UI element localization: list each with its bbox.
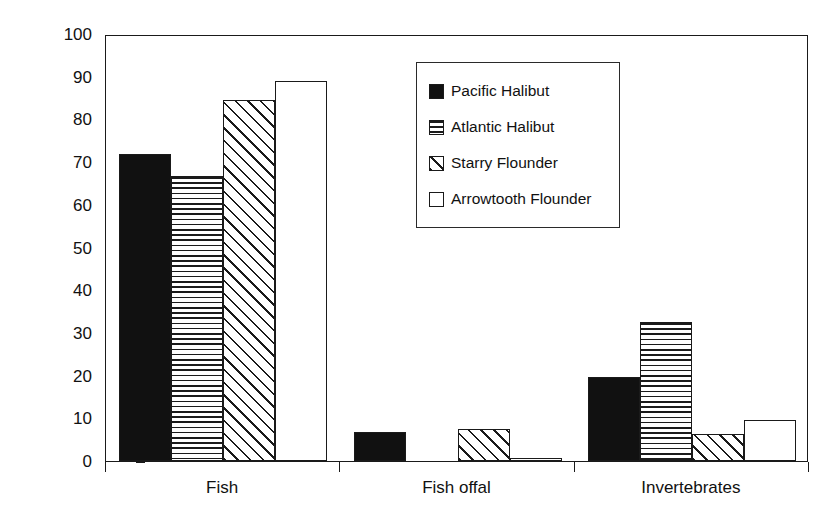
bar <box>458 429 510 461</box>
diagonal-hatch-swatch <box>429 156 444 171</box>
x-tick-mark <box>339 462 340 472</box>
horizontal-lines-swatch <box>429 120 444 135</box>
x-category-label: Fish <box>206 478 238 498</box>
bar <box>510 458 562 461</box>
bar <box>171 176 223 461</box>
bar <box>223 100 275 461</box>
y-tick-label: 40 <box>73 281 92 301</box>
legend-item-label: Atlantic Halibut <box>451 119 554 135</box>
bar <box>744 420 796 461</box>
bar <box>275 81 327 461</box>
legend-item-label: Starry Flounder <box>451 155 558 171</box>
legend-item: Arrowtooth Flounder <box>429 181 611 217</box>
y-tick-label: 80 <box>73 110 92 130</box>
bar <box>640 322 692 461</box>
legend-item-label: Pacific Halibut <box>451 83 549 99</box>
y-axis-title: % Diet Composition (by weight) <box>2 0 36 34</box>
legend-item: Starry Flounder <box>429 145 611 181</box>
bar-chart: % Diet Composition (by weight) 010203040… <box>0 0 833 526</box>
legend-item: Atlantic Halibut <box>429 109 611 145</box>
bar <box>119 154 171 461</box>
x-category-label: Fish offal <box>422 478 491 498</box>
bar <box>588 377 640 461</box>
y-tick-mark <box>136 462 145 463</box>
legend: Pacific HalibutAtlantic HalibutStarry Fl… <box>416 62 620 228</box>
x-tick-mark <box>105 462 106 472</box>
legend-item-label: Arrowtooth Flounder <box>451 191 591 207</box>
x-tick-mark <box>808 462 809 472</box>
bar <box>692 434 744 461</box>
y-tick-label: 70 <box>73 153 92 173</box>
y-tick-label: 30 <box>73 324 92 344</box>
y-tick-label: 0 <box>83 452 92 472</box>
solid-black-swatch <box>429 84 444 99</box>
legend-item: Pacific Halibut <box>429 73 611 109</box>
y-axis-ticks: 0102030405060708090100 <box>40 0 102 526</box>
empty-white-swatch <box>429 192 444 207</box>
y-tick-label: 10 <box>73 409 92 429</box>
y-tick-label: 100 <box>64 25 92 45</box>
y-tick-label: 60 <box>73 196 92 216</box>
bar <box>354 432 406 461</box>
x-tick-mark <box>574 462 575 472</box>
x-category-label: Invertebrates <box>641 478 740 498</box>
y-tick-label: 90 <box>73 68 92 88</box>
y-tick-label: 20 <box>73 367 92 387</box>
y-tick-label: 50 <box>73 239 92 259</box>
